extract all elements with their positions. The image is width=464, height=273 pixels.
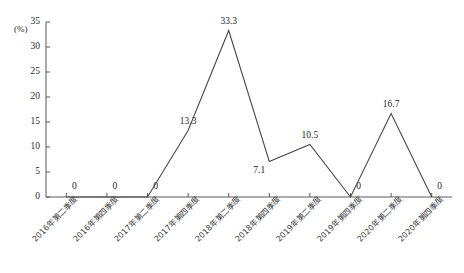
axis-lines xyxy=(46,22,452,197)
plot-area xyxy=(0,0,464,273)
data-series-line xyxy=(66,31,431,198)
line-chart: (%) 05101520253035 00013.333.37.110.5016… xyxy=(0,0,464,273)
x-axis-ticks xyxy=(66,193,431,197)
y-axis-ticks xyxy=(46,22,50,197)
